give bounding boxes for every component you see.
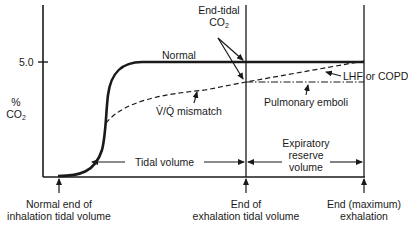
vq-pointer-arrow	[194, 92, 197, 103]
y-tick-label: 5.0	[19, 56, 34, 68]
end-tidal-arrow-abnormal	[218, 38, 243, 79]
expiratory-reserve-label: Expiratory reserve volume	[276, 137, 336, 173]
emboli-pointer-arrow	[306, 85, 308, 95]
lhf-copd-label: LHF or COPD	[343, 70, 408, 82]
start-marker-label: Normal end of inhalation tidal volume	[0, 198, 120, 222]
vq-mismatch-label: V̇/Q̇ mismatch	[156, 105, 222, 117]
end-tidal-co2-label: End-tidal CO2	[192, 4, 246, 32]
end-marker-label: End (maximum) exhalation	[326, 198, 402, 222]
pulmonary-emboli-label: Pulmonary emboli	[264, 96, 348, 108]
end-tidal-arrow-normal	[218, 38, 243, 60]
y-axis-label-co2: CO2	[4, 108, 28, 124]
tidal-volume-label: Tidal volume	[135, 156, 194, 168]
lhf-pointer-arrow	[326, 72, 341, 76]
mid-marker-label: End of exhalation tidal volume	[186, 198, 306, 222]
y-axis-label: % CO2	[4, 96, 28, 124]
normal-label: Normal	[162, 49, 196, 61]
vq-mismatch-curve	[106, 61, 364, 123]
y-axis-label-percent: %	[4, 96, 28, 108]
